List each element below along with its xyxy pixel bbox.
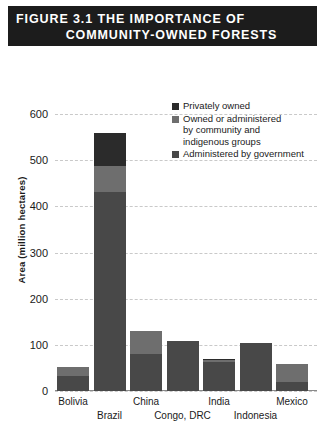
bar-segment (203, 362, 235, 391)
y-tick-600: 600 (18, 109, 48, 120)
bar-segment (276, 364, 308, 382)
legend-label: Owned or administeredby community andind… (183, 113, 281, 148)
legend-label: Privately owned (183, 100, 250, 112)
bar-segment (276, 382, 308, 391)
figure-title-line-1: FIGURE 3.1 THE IMPORTANCE OF (16, 11, 309, 27)
bar-india (203, 359, 235, 391)
x-tick-label: Bolivia (37, 396, 109, 408)
bar-brazil (94, 133, 126, 391)
x-axis-tick-labels: BoliviaBrazilChinaCongo, DRCIndiaIndones… (55, 393, 317, 433)
bar-segment (240, 343, 272, 391)
bar-congo-drc (167, 341, 199, 391)
y-tick-100: 100 (18, 340, 48, 351)
legend-item: Administered by government (172, 148, 317, 160)
x-tick-label: Indonesia (220, 410, 292, 422)
bar-segment (130, 354, 162, 391)
bar-segment (94, 166, 126, 193)
legend-item: Owned or administeredby community andind… (172, 113, 317, 148)
chart-legend: Privately ownedOwned or administeredby c… (172, 100, 317, 161)
legend-label: Administered by government (183, 148, 304, 160)
bar-bolivia (57, 367, 89, 391)
legend-swatch-icon (172, 151, 179, 158)
x-tick-label: Mexico (256, 396, 325, 408)
y-axis-tick-labels: 0100200300400500600 (0, 0, 50, 434)
figure-title-banner: FIGURE 3.1 THE IMPORTANCE OF COMMUNITY-O… (8, 6, 317, 46)
bar-segment (130, 331, 162, 354)
x-tick-label: Congo, DRC (147, 410, 219, 422)
x-tick-label: Brazil (74, 410, 146, 422)
bar-segment (57, 376, 89, 391)
bar-segment (94, 192, 126, 391)
figure-title-line-2: COMMUNITY-OWNED FORESTS (16, 27, 309, 43)
legend-swatch-icon (172, 116, 179, 123)
x-tick-label: China (110, 396, 182, 408)
legend-item: Privately owned (172, 100, 317, 112)
bar-segment (94, 133, 126, 165)
x-tick-label: India (183, 396, 255, 408)
y-tick-500: 500 (18, 155, 48, 166)
bar-mexico (276, 364, 308, 391)
y-tick-400: 400 (18, 201, 48, 212)
bar-indonesia (240, 343, 272, 391)
y-tick-200: 200 (18, 294, 48, 305)
bar-china (130, 331, 162, 391)
bar-segment (167, 341, 199, 391)
bar-segment (57, 367, 89, 376)
legend-swatch-icon (172, 103, 179, 110)
y-tick-300: 300 (18, 248, 48, 259)
